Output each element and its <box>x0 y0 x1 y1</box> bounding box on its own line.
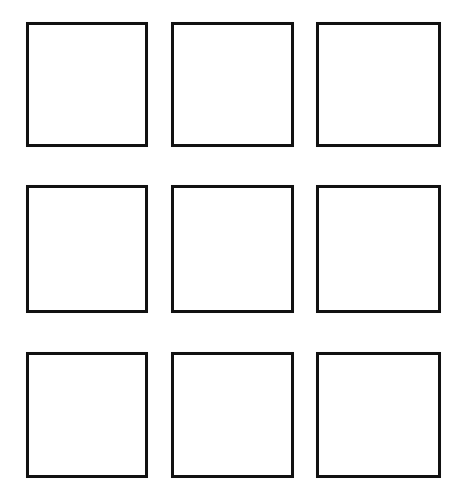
grid-cell-r2c1[interactable] <box>26 185 148 313</box>
grid-cell-r3c2[interactable] <box>171 352 294 478</box>
grid-canvas <box>0 0 468 504</box>
grid-cell-content-r2c2 <box>174 188 291 310</box>
grid-cell-r3c3[interactable] <box>316 352 441 478</box>
grid-cell-content-r1c2 <box>174 25 291 144</box>
grid-cell-content-r2c1 <box>29 188 145 310</box>
grid-cell-r1c2[interactable] <box>171 22 294 147</box>
grid-cell-r1c1[interactable] <box>26 22 148 147</box>
grid-cell-content-r3c1 <box>29 355 145 475</box>
grid-cell-r3c1[interactable] <box>26 352 148 478</box>
grid-cell-content-r2c3 <box>319 188 438 310</box>
grid-cell-r2c2[interactable] <box>171 185 294 313</box>
grid-cell-content-r1c3 <box>319 25 438 144</box>
grid-cell-content-r3c2 <box>174 355 291 475</box>
grid-cell-content-r3c3 <box>319 355 438 475</box>
grid-cell-r2c3[interactable] <box>316 185 441 313</box>
grid-cell-r1c3[interactable] <box>316 22 441 147</box>
grid-cell-content-r1c1 <box>29 25 145 144</box>
